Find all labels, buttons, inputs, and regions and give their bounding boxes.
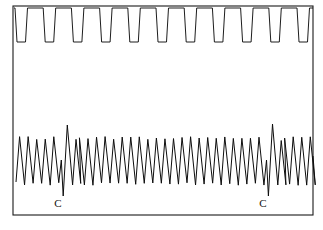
event-label-c-1: C [54,197,61,209]
marker-channel-trace [14,8,313,42]
figure-root: CC [0,0,323,230]
event-annotation-layer: CC [54,197,266,209]
event-label-c-2: C [259,197,266,209]
pulse-channel-trace [16,124,315,196]
recording-chart: CC [0,0,323,230]
